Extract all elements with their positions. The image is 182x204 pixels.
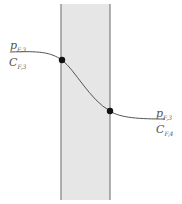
left-c-label: CF,3 [9,57,26,72]
diagram-canvas [0,0,182,204]
right-c-label: CF,4 [156,124,173,139]
left-p-label: pF,3 [10,40,26,55]
membrane-band [61,4,110,200]
right-p-label: pF,3 [156,108,172,123]
left-interface-point [59,57,65,63]
right-interface-point [107,108,113,114]
